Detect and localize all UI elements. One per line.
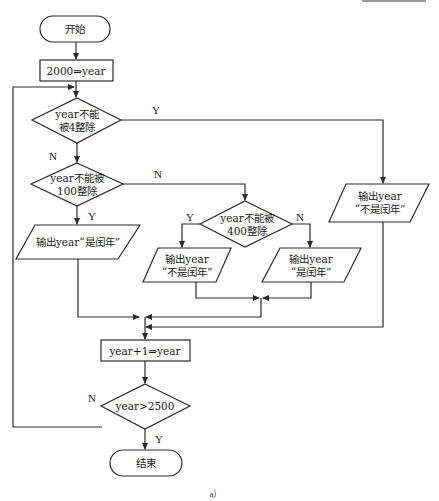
arrow-div400-yes — [182, 224, 200, 247]
label-div400-no: N — [296, 211, 304, 223]
output-leap-right-line2: “是闰年” — [291, 266, 332, 278]
label-div4-no: N — [49, 150, 57, 162]
end-text: 结束 — [136, 457, 157, 469]
merge-left-to-main — [78, 259, 139, 317]
output-leap-right-line1: 输出year — [289, 253, 333, 265]
increment-text: year+1⇒year — [108, 345, 181, 357]
start-text: 开始 — [65, 23, 86, 35]
merge-mid-to-join — [196, 282, 259, 298]
output-not-leap-mid-line2: “不是闰年” — [162, 266, 213, 278]
label-end-no: N — [88, 392, 96, 404]
div4-line1: year不能 — [54, 108, 99, 120]
label-div4-yes: Y — [152, 104, 160, 116]
flowchart: 开始 2000⇒year year不能 被4整除 Y N year不能被 100… — [0, 0, 439, 501]
merge-right-to-join — [263, 282, 311, 298]
output-not-leap-far-line2: “不是闰年” — [355, 203, 406, 215]
figure-caption: a） — [210, 489, 223, 499]
label-div400-yes: Y — [186, 211, 194, 223]
label-div100-yes: Y — [88, 210, 96, 222]
arrow-div400-no — [292, 224, 310, 247]
label-div100-no: N — [154, 168, 162, 180]
div100-line1: year不能被 — [49, 172, 104, 184]
div400-line1: year不能被 — [219, 212, 274, 224]
merge-inner-to-main — [146, 298, 261, 317]
div100-line2: 100整除 — [57, 185, 98, 197]
init-text: 2000⇒year — [47, 65, 107, 77]
div400-line2: 400整除 — [227, 225, 268, 237]
output-not-leap-mid-line1: 输出year — [165, 253, 209, 265]
decision-div400 — [200, 201, 292, 247]
arrow-div100-no — [123, 184, 245, 200]
top-edge-mark — [362, 0, 426, 2]
output-not-leap-far-line1: 输出year — [358, 190, 402, 202]
div4-line2: 被4整除 — [59, 121, 97, 133]
end-cond-text: year>2500 — [115, 400, 175, 412]
output-leap-left-text: 输出year“是闰年” — [36, 236, 120, 248]
label-end-yes: Y — [155, 433, 163, 445]
